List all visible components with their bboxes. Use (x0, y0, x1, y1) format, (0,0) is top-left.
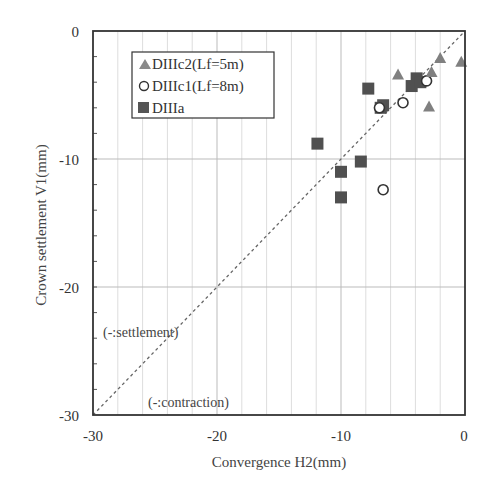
y-axis-label: Crown settlement V1(mm) (33, 144, 50, 305)
legend-label-diiic2: DIIIc2(Lf=5m) (152, 56, 244, 73)
y-tick-label: -10 (59, 152, 79, 168)
data-point (423, 101, 435, 112)
data-point (374, 103, 384, 113)
y-tick-label: 0 (72, 24, 80, 40)
legend: DIIIc2(Lf=5m) DIIIc1(Lf=8m) DIIIa (132, 52, 274, 118)
data-point (378, 185, 388, 195)
data-point (434, 52, 446, 63)
data-point (426, 66, 438, 77)
y-tick-label: -20 (59, 280, 79, 296)
data-point (335, 166, 347, 178)
scatter-chart: DIIIc2(Lf=5m) DIIIc1(Lf=8m) DIIIa (-:set… (0, 0, 494, 495)
data-points (311, 52, 467, 204)
x-tick-label: -10 (331, 428, 351, 444)
x-tick-label: -30 (83, 428, 103, 444)
x-tick-label: 0 (460, 428, 468, 444)
data-point (422, 76, 432, 86)
y-tick-label: -30 (59, 408, 79, 424)
legend-label-diiic1: DIIIc1(Lf=8m) (152, 78, 244, 95)
data-point (398, 98, 408, 108)
data-point (335, 191, 347, 203)
x-tick-label: -20 (207, 428, 227, 444)
annotation-settlement: (-:settlement) (103, 325, 179, 341)
data-point (355, 156, 367, 168)
data-point (311, 138, 323, 150)
legend-label-diiia: DIIIa (152, 100, 185, 116)
data-point (392, 69, 404, 80)
data-point (362, 83, 374, 95)
annotation-contraction: (-:contraction) (148, 395, 229, 411)
square-marker-icon (138, 102, 149, 113)
x-axis-label: Convergence H2(mm) (212, 454, 346, 471)
